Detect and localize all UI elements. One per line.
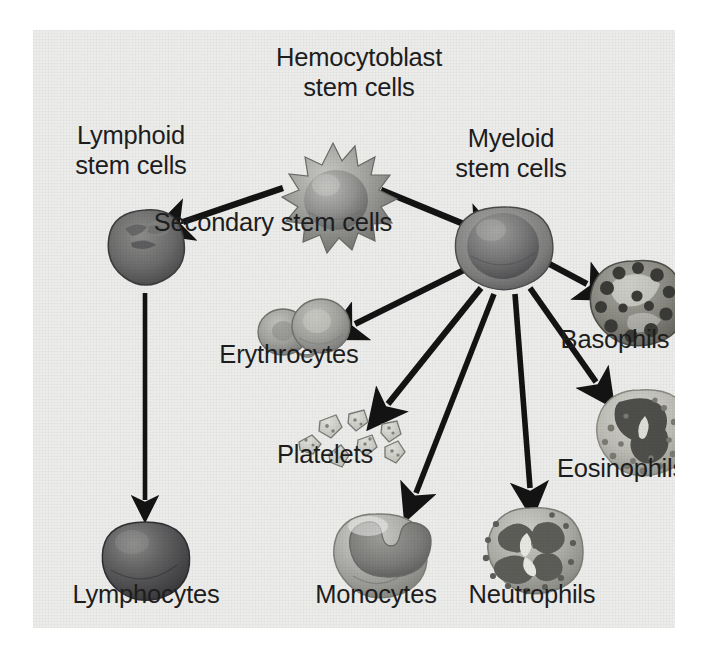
label-erythrocytes: Erythrocytes: [199, 340, 379, 369]
label-monocytes: Monocytes: [291, 580, 461, 609]
label-neutrophils: Neutrophils: [447, 580, 617, 609]
hematopoiesis-figure: Hemocytoblast stem cells Lymphoid stem c…: [33, 30, 675, 628]
label-lymphoid-stem-cells: Lymphoid stem cells: [51, 120, 211, 180]
label-basophils: Basophils: [545, 325, 675, 354]
cell-myeloid-stem: [455, 207, 552, 290]
label-secondary-stem-cells: Secondary stem cells: [133, 208, 413, 237]
label-myeloid-stem-cells: Myeloid stem cells: [431, 123, 591, 183]
label-eosinophils: Eosinophils: [541, 454, 675, 483]
label-hemocytoblast-stem-cells: Hemocytoblast stem cells: [251, 42, 467, 102]
label-platelets: Platelets: [255, 440, 395, 469]
label-lymphocytes: Lymphocytes: [53, 580, 239, 609]
